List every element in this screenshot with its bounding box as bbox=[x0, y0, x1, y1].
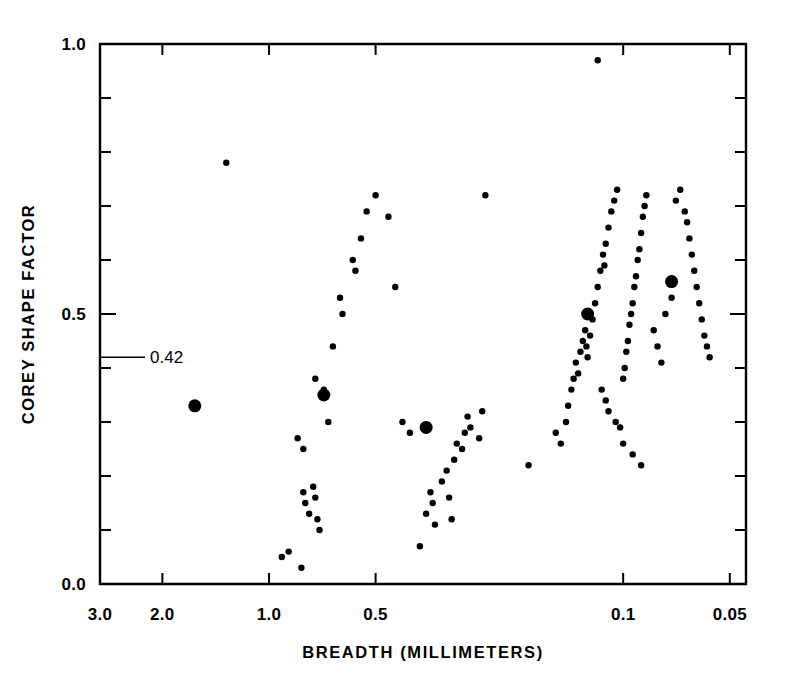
data-point bbox=[443, 467, 449, 473]
data-point bbox=[684, 219, 690, 225]
data-point bbox=[563, 419, 569, 425]
data-point bbox=[577, 349, 583, 355]
data-point bbox=[188, 399, 201, 412]
data-point bbox=[285, 548, 291, 554]
data-point bbox=[372, 192, 378, 198]
data-point bbox=[634, 257, 640, 263]
data-point bbox=[689, 251, 695, 257]
data-point bbox=[462, 430, 468, 436]
data-point bbox=[417, 543, 423, 549]
data-point bbox=[525, 462, 531, 468]
axis-ticks bbox=[100, 44, 746, 584]
x-tick-label-3.0: 3.0 bbox=[88, 605, 113, 624]
data-point bbox=[694, 284, 700, 290]
data-point bbox=[467, 424, 473, 430]
data-point bbox=[392, 284, 398, 290]
data-point bbox=[558, 440, 564, 446]
data-point bbox=[595, 57, 601, 63]
data-point bbox=[612, 419, 618, 425]
data-point bbox=[454, 440, 460, 446]
data-point bbox=[631, 284, 637, 290]
x-tick-label-1.0: 1.0 bbox=[257, 605, 282, 624]
data-point bbox=[704, 343, 710, 349]
data-point bbox=[423, 511, 429, 517]
data-point bbox=[314, 516, 320, 522]
data-point bbox=[575, 370, 581, 376]
x-tick-label-2.0: 2.0 bbox=[150, 605, 175, 624]
data-point bbox=[626, 322, 632, 328]
data-point bbox=[603, 397, 609, 403]
data-point bbox=[673, 197, 679, 203]
data-point bbox=[565, 403, 571, 409]
data-point bbox=[696, 300, 702, 306]
data-point bbox=[298, 565, 304, 571]
data-point bbox=[407, 430, 413, 436]
data-point bbox=[622, 365, 628, 371]
data-point bbox=[605, 224, 611, 230]
data-point bbox=[325, 419, 331, 425]
axis-frame-path bbox=[100, 44, 746, 584]
data-point bbox=[427, 489, 433, 495]
y-axis-tick-labels: 0.00.51.0 bbox=[61, 35, 86, 594]
data-point bbox=[654, 343, 660, 349]
data-point bbox=[451, 457, 457, 463]
data-points-layer bbox=[188, 57, 713, 571]
data-point bbox=[306, 511, 312, 517]
data-point bbox=[584, 354, 590, 360]
data-point bbox=[352, 268, 358, 274]
data-point bbox=[448, 516, 454, 522]
data-point bbox=[429, 500, 435, 506]
data-point bbox=[581, 308, 594, 321]
x-tick-label-0.1: 0.1 bbox=[611, 605, 636, 624]
data-point bbox=[420, 421, 433, 434]
data-point bbox=[620, 440, 626, 446]
data-point bbox=[658, 359, 664, 365]
data-point bbox=[330, 343, 336, 349]
plot-frame bbox=[100, 44, 746, 584]
data-point bbox=[459, 446, 465, 452]
data-point bbox=[640, 214, 646, 220]
data-point bbox=[638, 230, 644, 236]
data-point bbox=[611, 197, 617, 203]
data-point bbox=[608, 208, 614, 214]
data-point bbox=[641, 203, 647, 209]
plot-canvas: 0.42 3.02.01.00.50.10.05 0.00.51.0 BREAD… bbox=[0, 0, 790, 698]
data-point bbox=[614, 187, 620, 193]
data-point bbox=[446, 494, 452, 500]
y-tick-label-1.0: 1.0 bbox=[61, 35, 86, 54]
data-point bbox=[601, 262, 607, 268]
data-point bbox=[620, 376, 626, 382]
data-point bbox=[570, 376, 576, 382]
data-point bbox=[337, 295, 343, 301]
data-point bbox=[568, 386, 574, 392]
data-point bbox=[595, 284, 601, 290]
annotation-label: 0.42 bbox=[150, 348, 183, 367]
data-point bbox=[686, 235, 692, 241]
data-point bbox=[597, 268, 603, 274]
data-point bbox=[603, 241, 609, 247]
data-point bbox=[464, 413, 470, 419]
y-tick-label-0.0: 0.0 bbox=[61, 575, 86, 594]
data-point bbox=[617, 424, 623, 430]
x-tick-label-0.05: 0.05 bbox=[713, 605, 747, 624]
data-point bbox=[316, 527, 322, 533]
data-point bbox=[629, 300, 635, 306]
data-point bbox=[385, 214, 391, 220]
x-axis-title: BREADTH (MILLIMETERS) bbox=[302, 643, 544, 661]
data-point bbox=[358, 235, 364, 241]
data-point bbox=[662, 311, 668, 317]
data-point bbox=[302, 500, 308, 506]
data-point bbox=[476, 435, 482, 441]
data-point bbox=[479, 408, 485, 414]
data-point bbox=[432, 521, 438, 527]
annotation-0-42: 0.42 bbox=[100, 348, 183, 367]
data-point bbox=[583, 343, 589, 349]
data-point bbox=[682, 208, 688, 214]
data-point bbox=[300, 446, 306, 452]
data-point bbox=[629, 451, 635, 457]
data-point bbox=[699, 316, 705, 322]
data-point bbox=[633, 273, 639, 279]
data-point bbox=[573, 359, 579, 365]
data-point bbox=[625, 338, 631, 344]
data-point bbox=[706, 354, 712, 360]
